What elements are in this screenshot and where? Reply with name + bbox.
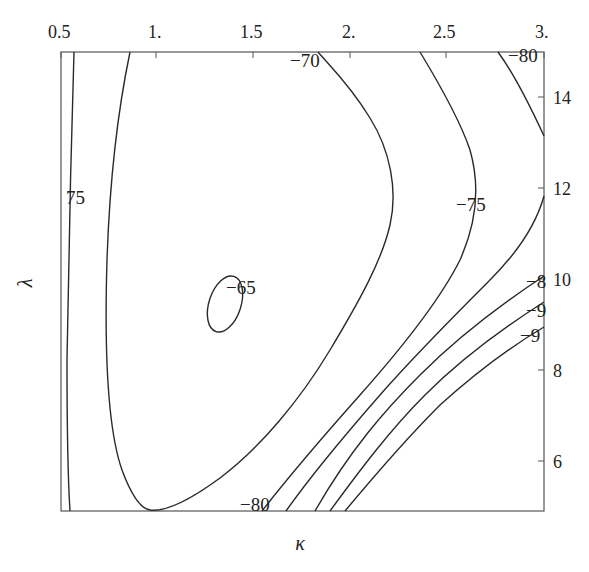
y-tick-label: 10 [553, 270, 571, 290]
contour-85 [315, 276, 544, 511]
x-axis-tick-labels: 0.5 1. 1.5 2. 2.5 3. [48, 22, 549, 42]
contour-label-65: −65 [226, 277, 256, 298]
y-axis-label: λ [14, 278, 36, 288]
contour-label-70: −70 [290, 50, 320, 71]
contour-label-80-bottom: −80 [240, 494, 270, 515]
contour-labels: −65 −70 75 −75 −80 −80 −8 −9 −9 [66, 45, 546, 515]
y-tick-label: 12 [553, 179, 571, 199]
contour-label-85: −8 [526, 271, 546, 292]
x-tick-label: 3. [535, 22, 549, 42]
contour-80 [286, 52, 544, 511]
x-tick-label: 2.5 [433, 22, 456, 42]
plot-frame [61, 52, 544, 511]
contour-lines [67, 52, 544, 511]
contour-label-90: −9 [526, 300, 546, 321]
x-tick-label: 0.5 [48, 22, 71, 42]
x-axis-label: κ [295, 532, 305, 554]
contour-label-75-left: 75 [66, 187, 85, 208]
contour-label-75-right: −75 [456, 194, 486, 215]
y-tick-label: 8 [553, 361, 562, 381]
y-tick-label: 14 [553, 88, 571, 108]
contour-chart: 0.5 1. 1.5 2. 2.5 3. 14 12 10 8 6 κ λ [0, 0, 589, 572]
x-tick-label: 1.5 [240, 22, 263, 42]
x-tick-label: 2. [342, 22, 356, 42]
y-tick-label: 6 [553, 452, 562, 472]
contour-75-left [67, 52, 74, 511]
y-axis-tick-labels: 14 12 10 8 6 [553, 88, 571, 472]
x-tick-label: 1. [148, 22, 162, 42]
contour-label-80-top: −80 [508, 45, 538, 66]
contour-95 [345, 327, 544, 511]
contour-label-95: −9 [520, 325, 540, 346]
